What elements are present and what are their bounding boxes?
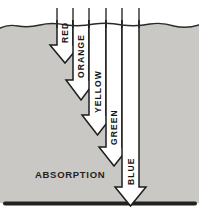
green-arrow-label: GREEN — [109, 109, 119, 145]
absorption-diagram: RED ORANGE YELLOW GREEN BLUE ABSORPTION — [0, 0, 199, 216]
diagram-canvas: RED ORANGE YELLOW GREEN BLUE ABSORPTION — [0, 0, 199, 216]
orange-arrow-label: ORANGE — [76, 34, 86, 78]
red-arrow-label: RED — [60, 22, 70, 43]
absorption-caption: ABSORPTION — [35, 169, 105, 180]
yellow-arrow-label: YELLOW — [93, 70, 103, 113]
blue-arrow-label: BLUE — [126, 157, 136, 185]
